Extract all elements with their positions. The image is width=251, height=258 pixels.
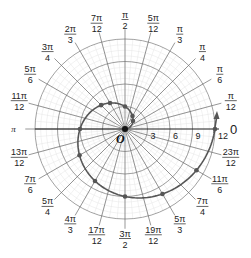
svg-text:5π: 5π — [42, 196, 53, 206]
svg-text:19π: 19π — [145, 225, 161, 235]
svg-text:2: 2 — [122, 21, 127, 31]
angle-label: 5π3 — [174, 214, 186, 235]
data-point — [130, 114, 135, 119]
svg-text:23π: 23π — [223, 147, 239, 157]
svg-text:7π: 7π — [91, 13, 102, 23]
svg-text:11π: 11π — [212, 174, 228, 184]
radius-tick: 12 — [218, 131, 228, 141]
angle-label: 17π12 — [88, 225, 105, 246]
svg-text:5π: 5π — [148, 13, 159, 23]
svg-text:π: π — [177, 24, 183, 34]
svg-text:π: π — [122, 10, 128, 20]
svg-text:5π: 5π — [25, 64, 36, 74]
zero-angle-label: 0 — [230, 122, 237, 137]
radius-tick: 9 — [196, 131, 201, 141]
data-point — [123, 194, 128, 199]
angle-label: 13π12 — [11, 147, 28, 168]
svg-text:π: π — [217, 64, 223, 74]
angle-label: π6 — [216, 64, 223, 85]
data-point — [93, 179, 98, 184]
arrow-icon — [214, 111, 220, 119]
svg-text:4: 4 — [45, 53, 50, 63]
svg-text:3π: 3π — [119, 229, 130, 239]
data-point — [131, 119, 136, 124]
angle-label: 11π12 — [11, 91, 28, 112]
svg-text:12: 12 — [226, 102, 236, 112]
svg-text:17π: 17π — [89, 225, 105, 235]
svg-text:6: 6 — [28, 75, 33, 85]
angle-spoke — [125, 33, 151, 129]
svg-text:12: 12 — [148, 24, 158, 34]
data-point — [123, 104, 128, 109]
svg-text:2: 2 — [122, 240, 127, 250]
angle-label: π2 — [122, 10, 129, 31]
svg-text:13π: 13π — [11, 147, 27, 157]
svg-text:3π: 3π — [42, 42, 53, 52]
svg-text:3: 3 — [177, 35, 182, 45]
svg-text:12: 12 — [148, 236, 158, 246]
angle-label: 5π4 — [42, 196, 54, 217]
svg-text:11π: 11π — [11, 91, 27, 101]
radius-tick-labels: 36912 — [151, 131, 229, 141]
angle-label: 5π6 — [24, 64, 36, 85]
angle-label: 7π4 — [196, 196, 208, 217]
angle-label: π — [11, 124, 16, 134]
svg-text:12: 12 — [14, 102, 24, 112]
svg-text:4π: 4π — [65, 214, 76, 224]
angle-spoke — [29, 103, 125, 129]
svg-text:π: π — [11, 124, 16, 134]
radius-tick: 6 — [173, 131, 178, 141]
angle-label: 19π12 — [145, 225, 162, 246]
svg-text:7π: 7π — [25, 174, 36, 184]
svg-text:3: 3 — [177, 225, 182, 235]
angle-label: 23π12 — [222, 147, 239, 168]
angle-label: π4 — [199, 42, 206, 63]
svg-text:3: 3 — [68, 35, 73, 45]
angle-label: 7π12 — [91, 13, 103, 34]
svg-text:12: 12 — [92, 236, 102, 246]
svg-text:3: 3 — [68, 225, 73, 235]
angle-label: 5π12 — [147, 13, 159, 34]
svg-text:2π: 2π — [65, 24, 76, 34]
angle-label: 2π3 — [64, 24, 76, 45]
angle-label: π3 — [176, 24, 183, 45]
radius-tick: 3 — [151, 131, 156, 141]
svg-text:7π: 7π — [197, 196, 208, 206]
angle-spoke — [125, 103, 221, 129]
svg-text:6: 6 — [217, 75, 222, 85]
data-point — [78, 127, 83, 132]
svg-text:12: 12 — [226, 158, 236, 168]
origin-label: O — [116, 132, 125, 146]
data-point — [77, 153, 82, 158]
angle-label: 3π2 — [119, 229, 131, 250]
svg-text:4: 4 — [200, 53, 205, 63]
svg-text:12: 12 — [14, 158, 24, 168]
angle-spoke — [29, 129, 125, 155]
data-point — [160, 192, 165, 197]
svg-text:4: 4 — [200, 207, 205, 217]
polar-chart: π12π6π4π35π12π27π122π33π45π611π12π13π127… — [0, 0, 251, 258]
angle-label: 4π3 — [64, 214, 76, 235]
svg-text:4: 4 — [45, 207, 50, 217]
data-point — [194, 168, 199, 173]
svg-text:6: 6 — [217, 185, 222, 195]
data-point — [108, 101, 113, 106]
angle-label: π12 — [225, 91, 237, 112]
angle-label: 11π6 — [211, 174, 228, 195]
angle-spoke — [99, 33, 125, 129]
angle-spoke — [125, 129, 151, 225]
svg-text:π: π — [228, 91, 234, 101]
svg-text:5π: 5π — [174, 214, 185, 224]
svg-text:6: 6 — [28, 185, 33, 195]
svg-text:12: 12 — [92, 24, 102, 34]
angle-label: 3π4 — [42, 42, 54, 63]
data-point — [99, 103, 104, 108]
angle-label: 7π6 — [24, 174, 36, 195]
svg-text:π: π — [199, 42, 205, 52]
